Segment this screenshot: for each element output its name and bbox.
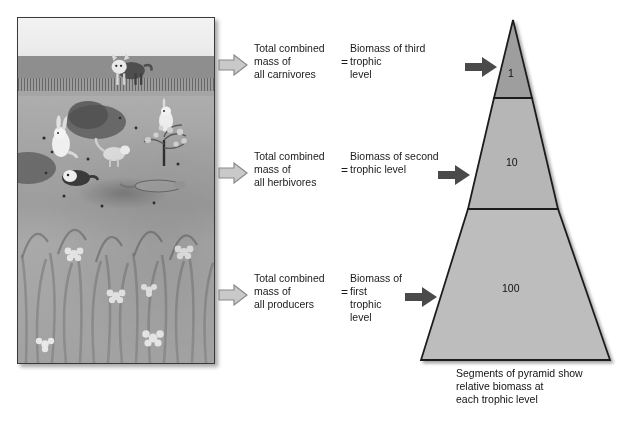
ecosystem-illustration-panel: [17, 17, 215, 364]
arrow-right-light-icon: [218, 284, 248, 306]
producer-grass-arcs: [22, 230, 197, 262]
pyramid-segment-second-trophic: [468, 98, 558, 209]
left-label-producers: Total combined mass of all producers: [254, 272, 346, 311]
pyramid-caption: Segments of pyramid show relative biomas…: [456, 367, 629, 406]
illustration-organisms: [18, 18, 214, 363]
equals-sign: =: [341, 163, 348, 177]
label-line: mass of: [254, 285, 346, 298]
label-line: all carnivores: [254, 68, 346, 81]
pyramid-value-first-trophic: 100: [502, 282, 520, 294]
caption-line: Segments of pyramid show: [456, 367, 629, 380]
pyramid-value-third-trophic: 1: [508, 67, 514, 79]
producer-flowers: [36, 246, 194, 353]
left-label-carnivores: Total combined mass of all carnivores: [254, 42, 346, 81]
carnivore-animal: [112, 54, 152, 85]
bush-shape: [68, 101, 108, 129]
label-line: Total combined: [254, 272, 346, 285]
label-line: Total combined: [254, 150, 346, 163]
label-line: all herbivores: [254, 176, 346, 189]
equals-sign: =: [341, 55, 348, 69]
left-label-herbivores: Total combined mass of all herbivores: [254, 150, 346, 189]
pyramid-segment-third-trophic: [494, 20, 532, 98]
arrow-right-light-icon: [218, 162, 248, 184]
herbivore-grazer: [96, 138, 130, 167]
biomass-pyramid: 1 10 100: [398, 10, 629, 370]
equals-sign: =: [341, 285, 348, 299]
label-line: Total combined: [254, 42, 346, 55]
pyramid-value-second-trophic: 10: [506, 156, 518, 168]
caption-line: each trophic level: [456, 393, 629, 406]
label-line: mass of: [254, 163, 346, 176]
label-line: mass of: [254, 55, 346, 68]
bush-shape: [18, 152, 56, 184]
caption-line: relative biomass at: [456, 380, 629, 393]
pyramid-svg: [398, 10, 629, 370]
arrow-right-light-icon: [218, 54, 248, 76]
label-line: all producers: [254, 298, 346, 311]
producer-grass-blades: [22, 251, 213, 363]
